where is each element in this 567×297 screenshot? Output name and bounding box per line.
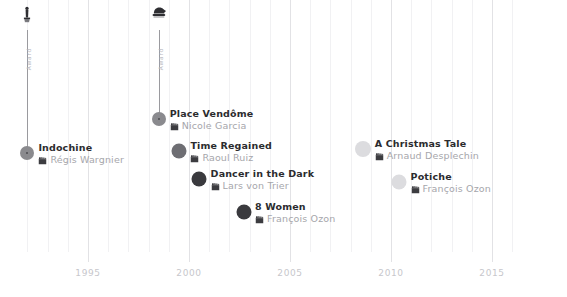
clapperboard-icon <box>190 154 199 163</box>
film-title: Potiche <box>411 171 491 183</box>
film-dot-center <box>26 152 28 154</box>
film-director-row: François Ozon <box>255 213 335 225</box>
award-label: Award <box>25 48 32 70</box>
film-director-row: Lars von Trier <box>211 180 315 192</box>
film-director: Régis Wargnier <box>50 154 124 166</box>
film-director: Lars von Trier <box>223 180 289 192</box>
gridline-minor <box>452 0 453 252</box>
gridline-minor <box>128 0 129 252</box>
clapperboard-icon <box>411 185 420 194</box>
film-title: Indochine <box>38 142 124 154</box>
gridline-minor <box>108 0 109 252</box>
film-label-group: IndochineRégis Wargnier <box>38 142 124 166</box>
film-label-group: Time RegainedRaoul Ruiz <box>190 140 272 164</box>
film-title: Dancer in the Dark <box>211 168 315 180</box>
clapperboard-icon <box>255 215 264 224</box>
award-stem <box>159 30 160 119</box>
film-title: Place Vendôme <box>170 108 254 120</box>
film-director-row: Raoul Ruiz <box>190 152 272 164</box>
gridline-minor <box>472 0 473 252</box>
film-director: François Ozon <box>423 183 491 195</box>
axis-tick-label-2015: 2015 <box>479 268 504 278</box>
gridline-minor <box>411 0 412 252</box>
film-director: Nicole Garcia <box>182 120 247 132</box>
gridline-major <box>492 0 493 262</box>
gridline-minor <box>149 0 150 252</box>
award-label: Award <box>157 48 164 70</box>
film-title: 8 Women <box>255 201 335 213</box>
axis-tick-label-1995: 1995 <box>75 268 100 278</box>
gridline-major <box>391 0 392 262</box>
clapperboard-icon <box>38 156 47 165</box>
timeline-chart: 19952000200520102015 AwardIndochineRégis… <box>0 0 567 297</box>
gridline-minor <box>371 0 372 252</box>
film-dot[interactable] <box>192 172 207 187</box>
axis-tick-label-2000: 2000 <box>176 268 201 278</box>
gridline-minor <box>512 0 513 252</box>
gridline-minor <box>351 0 352 252</box>
film-dot[interactable] <box>171 144 186 159</box>
oscar-statuette-icon <box>21 6 34 28</box>
clapperboard-icon <box>170 122 179 131</box>
axis-tick-label-2010: 2010 <box>378 268 403 278</box>
film-title: Time Regained <box>190 140 272 152</box>
film-director: Raoul Ruiz <box>202 152 253 164</box>
gridline-major <box>88 0 89 262</box>
clapperboard-icon <box>375 152 384 161</box>
film-director-row: Nicole Garcia <box>170 120 254 132</box>
film-dot[interactable] <box>392 175 407 190</box>
award-trophy-icon <box>150 6 167 20</box>
film-dot[interactable] <box>236 205 251 220</box>
film-label-group: Dancer in the DarkLars von Trier <box>211 168 315 192</box>
gridline-minor <box>48 0 49 252</box>
film-label-group: A Christmas TaleArnaud Desplechin <box>375 138 479 162</box>
clapperboard-icon <box>211 182 220 191</box>
film-director-row: Régis Wargnier <box>38 154 124 166</box>
film-dot-center <box>158 118 160 120</box>
film-director: François Ozon <box>267 213 335 225</box>
film-director-row: François Ozon <box>411 183 491 195</box>
axis-tick-label-2005: 2005 <box>277 268 302 278</box>
film-label-group: 8 WomenFrançois Ozon <box>255 201 335 225</box>
film-title: A Christmas Tale <box>375 138 479 150</box>
gridline-minor <box>68 0 69 252</box>
film-label-group: Place VendômeNicole Garcia <box>170 108 254 132</box>
film-director: Arnaud Desplechin <box>387 150 479 162</box>
film-dot[interactable] <box>355 141 371 157</box>
gridline-minor <box>431 0 432 252</box>
film-label-group: PoticheFrançois Ozon <box>411 171 491 195</box>
film-director-row: Arnaud Desplechin <box>375 150 479 162</box>
